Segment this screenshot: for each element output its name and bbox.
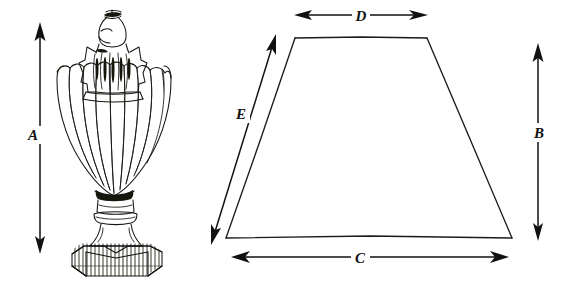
urn-knop bbox=[99, 17, 126, 47]
dimension-e: E bbox=[211, 34, 276, 245]
shade-top-edge bbox=[295, 37, 427, 38]
dimension-b: B bbox=[530, 43, 548, 241]
urn-stem-lower bbox=[90, 224, 142, 253]
diagram-svg: A D B bbox=[0, 0, 576, 283]
dimension-a: A bbox=[26, 22, 46, 254]
urn-fluted-collar bbox=[79, 47, 147, 93]
urn-stem-top-collar bbox=[95, 190, 134, 201]
shade-trapezoid bbox=[226, 37, 512, 238]
dimension-e-line bbox=[214, 44, 273, 235]
dimension-b-label: B bbox=[533, 125, 544, 141]
dimension-d: D bbox=[294, 6, 428, 25]
urn-finial-lamp-body bbox=[57, 10, 171, 280]
shade-left-edge bbox=[226, 38, 295, 238]
shade-bottom-edge bbox=[226, 236, 512, 238]
urn-plinth-base bbox=[72, 244, 162, 280]
dimension-e-label: E bbox=[235, 106, 246, 122]
urn-stem-ring bbox=[94, 212, 137, 225]
urn-bowl bbox=[57, 62, 171, 196]
dimension-c-label: C bbox=[355, 250, 366, 266]
dimension-c: C bbox=[231, 247, 509, 267]
dimension-d-label: D bbox=[355, 8, 367, 24]
shade-right-edge bbox=[427, 38, 512, 238]
diagram-canvas: A D B bbox=[0, 0, 576, 283]
dimension-a-label: A bbox=[27, 127, 38, 143]
